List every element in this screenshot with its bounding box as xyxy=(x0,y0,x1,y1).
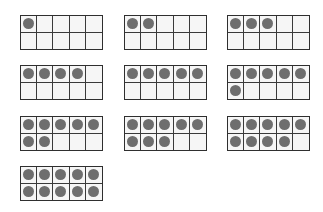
frame-cell xyxy=(21,83,37,100)
frame-cell xyxy=(86,134,102,151)
frame-cell xyxy=(53,167,69,184)
frame-cell xyxy=(125,134,141,151)
frame-cell xyxy=(190,117,206,134)
frame-cell xyxy=(37,66,53,83)
counter-dot-icon xyxy=(230,136,241,147)
frame-cell xyxy=(277,33,293,50)
counter-dot-icon xyxy=(39,186,50,197)
ten-frame-6 xyxy=(227,65,310,100)
frame-cell xyxy=(21,167,37,184)
frame-cell xyxy=(293,134,309,151)
frame-cell xyxy=(21,16,37,33)
counter-dot-icon xyxy=(88,169,99,180)
counter-dot-icon xyxy=(143,18,154,29)
frame-cell xyxy=(21,117,37,134)
counter-dot-icon xyxy=(55,68,66,79)
frame-cell xyxy=(277,66,293,83)
frame-cell xyxy=(53,33,69,50)
counter-dot-icon xyxy=(295,119,306,130)
frame-cell xyxy=(174,117,190,134)
ten-frame-10 xyxy=(20,166,103,201)
frame-cell xyxy=(190,66,206,83)
frame-cell xyxy=(228,66,244,83)
counter-dot-icon xyxy=(262,18,273,29)
counter-dot-icon xyxy=(230,68,241,79)
counter-dot-icon xyxy=(23,186,34,197)
counter-dot-icon xyxy=(55,169,66,180)
counter-dot-icon xyxy=(23,68,34,79)
frame-cell xyxy=(260,117,276,134)
frame-cell xyxy=(70,33,86,50)
frame-cell xyxy=(277,117,293,134)
frame-cell xyxy=(228,16,244,33)
frame-cell xyxy=(37,134,53,151)
frame-cell xyxy=(125,117,141,134)
frame-cell xyxy=(228,33,244,50)
counter-dot-icon xyxy=(72,169,83,180)
frame-cell xyxy=(190,33,206,50)
frame-cell xyxy=(86,167,102,184)
frame-cell xyxy=(53,134,69,151)
counter-dot-icon xyxy=(39,136,50,147)
counter-dot-icon xyxy=(23,169,34,180)
counter-dot-icon xyxy=(230,18,241,29)
counter-dot-icon xyxy=(88,186,99,197)
frame-cell xyxy=(244,16,260,33)
frame-cell xyxy=(174,134,190,151)
counter-dot-icon xyxy=(159,136,170,147)
counter-dot-icon xyxy=(279,68,290,79)
frame-cell xyxy=(260,16,276,33)
frame-cell xyxy=(293,33,309,50)
frame-cell xyxy=(260,33,276,50)
counter-dot-icon xyxy=(88,119,99,130)
frame-cell xyxy=(53,117,69,134)
counter-dot-icon xyxy=(262,136,273,147)
frame-cell xyxy=(228,117,244,134)
frame-cell xyxy=(86,33,102,50)
frame-cell xyxy=(244,83,260,100)
frame-cell xyxy=(277,134,293,151)
frame-cell xyxy=(260,83,276,100)
counter-dot-icon xyxy=(230,85,241,96)
counter-dot-icon xyxy=(143,68,154,79)
counter-dot-icon xyxy=(295,68,306,79)
frame-cell xyxy=(70,134,86,151)
frame-cell xyxy=(86,66,102,83)
counter-dot-icon xyxy=(72,186,83,197)
frame-cell xyxy=(174,66,190,83)
frame-cell xyxy=(260,66,276,83)
counter-dot-icon xyxy=(262,68,273,79)
frame-cell xyxy=(70,117,86,134)
ten-frame-8 xyxy=(124,116,207,151)
counter-dot-icon xyxy=(39,119,50,130)
frame-cell xyxy=(70,83,86,100)
frame-cell xyxy=(53,16,69,33)
frame-cell xyxy=(70,184,86,201)
frame-cell xyxy=(157,83,173,100)
counter-dot-icon xyxy=(72,68,83,79)
frame-cell xyxy=(21,134,37,151)
counter-dot-icon xyxy=(279,136,290,147)
frame-cell xyxy=(70,16,86,33)
counter-dot-icon xyxy=(127,119,138,130)
frame-cell xyxy=(190,83,206,100)
frame-cell xyxy=(53,184,69,201)
frame-cell xyxy=(86,184,102,201)
counter-dot-icon xyxy=(23,119,34,130)
counter-dot-icon xyxy=(246,18,257,29)
counter-dot-icon xyxy=(262,119,273,130)
frame-cell xyxy=(53,66,69,83)
frame-cell xyxy=(21,66,37,83)
ten-frame-1 xyxy=(20,15,103,50)
frame-cell xyxy=(21,184,37,201)
frame-cell xyxy=(277,16,293,33)
counter-dot-icon xyxy=(143,136,154,147)
frame-cell xyxy=(37,117,53,134)
counter-dot-icon xyxy=(279,119,290,130)
frame-cell xyxy=(37,184,53,201)
frame-cell xyxy=(228,83,244,100)
counter-dot-icon xyxy=(127,68,138,79)
frame-cell xyxy=(125,33,141,50)
ten-frame-5 xyxy=(124,65,207,100)
counter-dot-icon xyxy=(55,186,66,197)
